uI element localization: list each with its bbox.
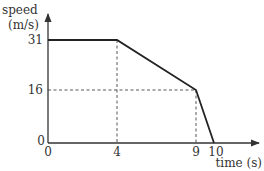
speed-time-chart: speed (m/s) 31 16 0 0 4 9 10 time (s) xyxy=(0,0,264,171)
guide-lines xyxy=(48,40,196,143)
x-tick-4: 4 xyxy=(113,145,121,159)
y-axis-label-line1: speed xyxy=(2,3,38,17)
x-tick-0: 0 xyxy=(44,145,52,159)
y-tick-31: 31 xyxy=(28,33,43,47)
y-tick-16: 16 xyxy=(28,83,43,97)
x-tick-9: 9 xyxy=(192,145,200,159)
speed-line xyxy=(48,40,214,143)
x-axis-label: time (s) xyxy=(216,156,262,170)
y-axis-label-line2: (m/s) xyxy=(8,18,39,32)
